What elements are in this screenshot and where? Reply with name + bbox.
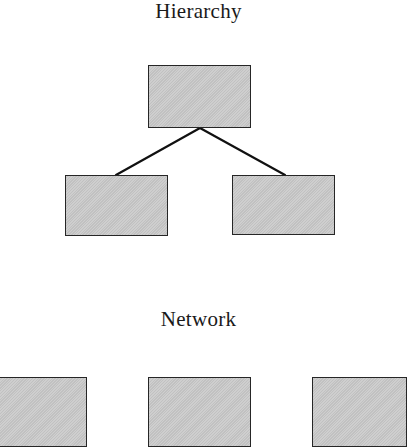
edge-root-to-left — [116, 128, 200, 175]
network-title: Network — [0, 307, 397, 332]
network-node-right — [312, 377, 407, 447]
network-node-middle — [148, 377, 251, 447]
hierarchy-node-root — [148, 65, 251, 128]
network-node-left — [0, 377, 87, 447]
hierarchy-title: Hierarchy — [0, 0, 397, 24]
hierarchy-node-child-right — [232, 175, 335, 235]
hierarchy-node-child-left — [65, 175, 168, 236]
edge-root-to-right — [200, 128, 285, 175]
